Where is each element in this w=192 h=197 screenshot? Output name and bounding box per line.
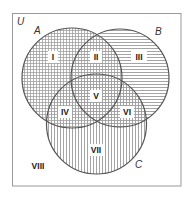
universe-label: U [17, 16, 25, 27]
region-label-i: I [52, 52, 54, 62]
region-label-vii: VII [91, 145, 101, 155]
region-label-v: V [93, 91, 99, 101]
region-label-viii: VIII [32, 161, 45, 171]
region-label-iii: III [135, 52, 142, 62]
set-a-label: A [33, 25, 41, 36]
set-b-label: B [155, 26, 162, 37]
venn-diagram: U A B C I II III IV V VI VII VIII [0, 0, 192, 197]
region-label-ii: II [94, 52, 99, 62]
region-label-vi: VI [123, 107, 131, 117]
region-label-iv: IV [61, 107, 69, 117]
set-c-label: C [135, 159, 143, 170]
